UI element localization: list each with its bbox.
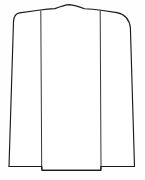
illustration-canvas: Jacket back view line drawing Simple out…	[0, 0, 145, 180]
jacket-outline-path	[9, 5, 135, 171]
jacket-line-drawing: Jacket back view line drawing Simple out…	[0, 0, 145, 180]
